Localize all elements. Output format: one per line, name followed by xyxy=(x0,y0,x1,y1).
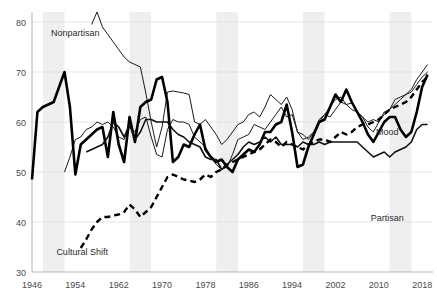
y-tick-label-50: 50 xyxy=(16,168,26,178)
y-tick-label-80: 80 xyxy=(16,18,26,28)
annotation-nonpartisan: Nonpartisan xyxy=(51,28,100,38)
x-tick-label-1978: 1978 xyxy=(195,280,215,290)
x-tick-label-2010: 2010 xyxy=(369,280,389,290)
line-chart: 304050607080 194619541962197019781986199… xyxy=(0,0,437,302)
y-tick-label-30: 30 xyxy=(16,268,26,278)
chart-container: 304050607080 194619541962197019781986199… xyxy=(0,0,437,302)
x-tick-label-1986: 1986 xyxy=(239,280,259,290)
x-tick-label-2002: 2002 xyxy=(325,280,345,290)
y-tick-label-60: 60 xyxy=(16,118,26,128)
annotation-mood: Mood xyxy=(376,127,399,137)
x-tick-label-1970: 1970 xyxy=(152,280,172,290)
annotation-cultural-shift: Cultural Shift xyxy=(56,247,108,257)
shaded-band-3 xyxy=(303,12,325,272)
shaded-band-1 xyxy=(130,12,152,272)
annotation-partisan: Partisan xyxy=(371,213,404,223)
x-tick-label-1962: 1962 xyxy=(109,280,129,290)
shaded-band-2 xyxy=(216,12,238,272)
shaded-band-4 xyxy=(390,12,412,272)
shaded-band-0 xyxy=(43,12,65,272)
x-tick-label-1954: 1954 xyxy=(65,280,85,290)
x-tick-label-1994: 1994 xyxy=(282,280,302,290)
y-tick-label-40: 40 xyxy=(16,218,26,228)
x-tick-label-1946: 1946 xyxy=(22,280,42,290)
x-tick-label-2018: 2018 xyxy=(412,280,432,290)
y-tick-label-70: 70 xyxy=(16,68,26,78)
